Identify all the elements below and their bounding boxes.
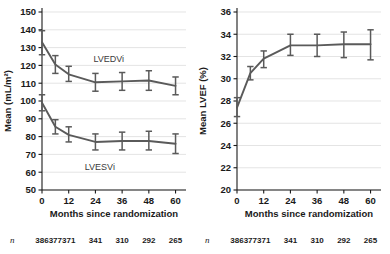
y-tick-label: 90 [25, 113, 36, 124]
n-row-value: 265 [169, 236, 183, 245]
x-tick-label: 0 [234, 195, 239, 206]
n-row-value: 341 [89, 236, 103, 245]
n-row-value: 377 [244, 236, 258, 245]
n-row-value: 292 [142, 236, 156, 245]
x-tick-label: 48 [339, 195, 350, 206]
y-tick-label: 24 [220, 140, 231, 151]
y-tick-label: 140 [20, 24, 36, 35]
n-row-value: 371 [62, 236, 76, 245]
series-lvesvi [39, 95, 179, 154]
y-axis-title: Mean (mL/m²) [2, 70, 13, 132]
n-row-value: 377 [49, 236, 63, 245]
y-tick-label: 32 [220, 51, 231, 62]
n-row-value: 341 [284, 236, 298, 245]
x-tick-label: 36 [117, 195, 128, 206]
y-tick-label: 20 [220, 184, 231, 195]
y-tick-label: 70 [25, 149, 36, 160]
x-tick-label: 36 [312, 195, 323, 206]
x-axis-title: Months since randomization [50, 208, 178, 219]
n-row-value: 265 [364, 236, 378, 245]
x-tick-label: 0 [39, 195, 44, 206]
n-row-value: 292 [337, 236, 351, 245]
n-row-label: n [10, 235, 15, 245]
series-polyline [42, 42, 176, 86]
n-row-value: 310 [115, 236, 129, 245]
y-tick-label: 34 [220, 29, 231, 40]
figure-two-panel-chart: 506070809010011012013014015001224364860M… [0, 0, 390, 254]
x-tick-label: 48 [144, 195, 155, 206]
y-tick-label: 150 [20, 6, 36, 17]
y-tick-label: 50 [25, 184, 36, 195]
series-mean-lvef---- [234, 30, 374, 117]
x-tick-label: 24 [90, 195, 101, 206]
x-tick-label: 60 [365, 195, 376, 206]
y-tick-label: 100 [20, 95, 36, 106]
right-chart-svg: 20222426283032343601224364860Months sinc… [195, 0, 390, 254]
y-tick-label: 80 [25, 131, 36, 142]
series-polyline [42, 103, 176, 144]
chart-panel-right: 20222426283032343601224364860Months sinc… [195, 0, 390, 254]
n-row-value: 386 [230, 236, 244, 245]
y-tick-label: 26 [220, 118, 231, 129]
series-annotation: LVEDVi [93, 54, 124, 64]
y-tick-label: 30 [220, 73, 231, 84]
chart-panel-left: 506070809010011012013014015001224364860M… [0, 0, 195, 254]
x-tick-label: 12 [63, 195, 74, 206]
x-tick-label: 60 [170, 195, 181, 206]
x-axis-title: Months since randomization [245, 208, 373, 219]
y-tick-label: 36 [220, 6, 231, 17]
x-tick-label: 24 [285, 195, 296, 206]
x-tick-label: 12 [258, 195, 269, 206]
n-row-value: 386 [35, 236, 49, 245]
y-tick-label: 110 [21, 78, 36, 89]
y-tick-label: 22 [220, 162, 231, 173]
y-tick-label: 28 [220, 95, 231, 106]
y-tick-label: 120 [20, 60, 36, 71]
left-chart-svg: 506070809010011012013014015001224364860M… [0, 0, 195, 254]
y-tick-label: 130 [20, 42, 36, 53]
y-tick-label: 60 [25, 167, 36, 178]
n-row-label: n [205, 235, 210, 245]
n-row-value: 310 [310, 236, 324, 245]
n-row-value: 371 [257, 236, 271, 245]
y-axis-title: Mean LVEF (%) [197, 67, 208, 135]
series-annotation: LVESVi [85, 162, 115, 172]
series-polyline [237, 44, 371, 107]
